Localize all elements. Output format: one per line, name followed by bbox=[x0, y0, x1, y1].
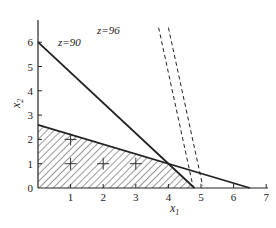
line-z-96 bbox=[168, 28, 202, 186]
y-tick-label: 3 bbox=[28, 109, 34, 121]
x-tick-label: 5 bbox=[198, 191, 204, 203]
y-tick-label: 5 bbox=[28, 61, 34, 73]
y-tick-label: 6 bbox=[28, 36, 34, 48]
x-axis-label: x1 bbox=[169, 201, 179, 217]
y-tick-label: 2 bbox=[28, 133, 34, 145]
x-tick-label: 2 bbox=[100, 191, 106, 203]
z90-label: z=90 bbox=[57, 36, 81, 48]
y-tick-label: 4 bbox=[28, 85, 34, 97]
x-tick-label: 6 bbox=[231, 191, 237, 203]
x-tick-label: 7 bbox=[263, 191, 269, 203]
feasible-region bbox=[38, 125, 194, 188]
y-tick-label: 0 bbox=[28, 182, 34, 194]
lp-feasible-region-chart: 1234567 0123456 z=90 z=96 x1 x2 bbox=[0, 0, 276, 228]
y-tick-label: 1 bbox=[28, 158, 34, 170]
z96-label: z=96 bbox=[96, 24, 120, 36]
y-axis-label: x2 bbox=[9, 99, 25, 109]
x-tick-label: 1 bbox=[68, 191, 74, 203]
x-tick-label: 3 bbox=[133, 191, 139, 203]
